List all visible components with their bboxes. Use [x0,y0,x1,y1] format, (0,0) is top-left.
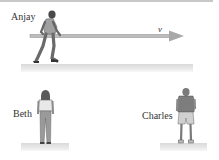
anjay-figure-icon [0,0,219,80]
charles-figure-icon [0,80,219,160]
